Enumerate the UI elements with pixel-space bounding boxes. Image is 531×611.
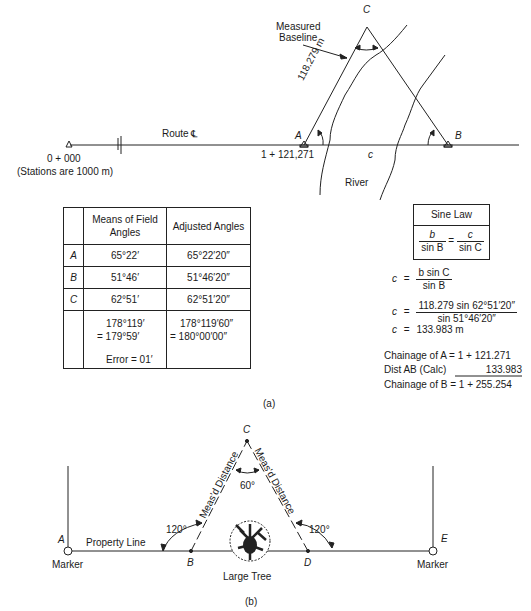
route-label: Route ℄	[162, 128, 197, 139]
stations-note: (Stations are 1000 m)	[17, 166, 113, 177]
computation-step3: c = 133.983 m	[392, 324, 464, 335]
river-label: River	[345, 177, 368, 188]
sum-adjusted-cell: 178°119′60″ = 180°00′00″	[167, 311, 251, 369]
table-row: A 65°22′ 65°22′20″	[64, 245, 251, 267]
start-station-triangle-icon	[66, 141, 72, 147]
route-text: Route	[162, 128, 189, 139]
river-bank-right	[380, 55, 445, 200]
centerline-icon: ℄	[191, 128, 197, 139]
point-b-label: B	[455, 130, 462, 141]
start-station-label: 0 + 000	[47, 153, 81, 164]
error-label: Error = 01′	[84, 343, 166, 366]
computation-step2: c = 118.279 sin 62°51′20″sin 51°46′20″	[392, 300, 517, 325]
point-c-label: C	[363, 4, 370, 15]
angle-120-right-label: 120°	[309, 524, 330, 535]
property-line-label: Property Line	[86, 537, 145, 548]
b-point-b-label: B	[187, 557, 194, 568]
point-a-label: A	[295, 130, 302, 141]
sine-law-formula: bsin B = csin C	[414, 226, 489, 254]
table-row: B 51°46′ 51°46′20″	[64, 267, 251, 289]
b-point-c-label: C	[243, 424, 250, 435]
river-bank-left	[320, 25, 407, 195]
caption-a: (a)	[263, 398, 275, 409]
marker-left-label: Marker	[52, 559, 83, 570]
b-point-e-label: E	[441, 533, 448, 544]
station-a-label: 1 + 121,271	[261, 149, 314, 160]
dist-ab: Dist AB (Calc) 133.983	[384, 364, 522, 375]
header-empty-cell	[64, 208, 84, 245]
side-cb	[367, 27, 448, 145]
table-sum-row: 178°119′ = 179°59′ Error = 01′ 178°119′6…	[64, 311, 251, 369]
marker-a-icon	[64, 547, 72, 555]
computation-step1: c = b sin Csin B	[392, 267, 452, 292]
angle-120-left-label: 120°	[166, 524, 187, 535]
header-field-angles: Means of Field Angles	[84, 208, 167, 245]
angle-60-label: 60°	[240, 480, 255, 491]
header-adjusted-angles: Adjusted Angles	[167, 208, 251, 245]
sine-law-box: Sine Law bsin B = csin C	[413, 204, 490, 260]
side-c-label: c	[368, 149, 373, 160]
large-tree-icon	[230, 521, 270, 561]
table-header-row: Means of Field Angles Adjusted Angles	[64, 208, 251, 245]
chainage-b: Chainage of B = 1 + 255.254	[384, 379, 512, 390]
marker-right-label: Marker	[417, 559, 448, 570]
b-point-d-label: D	[304, 557, 311, 568]
sum-field-cell: 178°119′ = 179°59′ Error = 01′	[84, 311, 167, 369]
large-tree-label: Large Tree	[223, 571, 271, 582]
table-row: C 62°51′ 62°51′20″	[64, 289, 251, 311]
marker-e-icon	[429, 547, 437, 555]
sine-law-title: Sine Law	[414, 205, 489, 226]
chainage-a: Chainage of A = 1 + 121.271	[384, 350, 511, 361]
b-point-a-label: A	[58, 534, 65, 545]
angles-table: Means of Field Angles Adjusted Angles A …	[63, 207, 251, 369]
station-b-triangle-icon	[444, 141, 452, 147]
caption-b: (b)	[245, 596, 257, 607]
measured-baseline-line1: Measured	[276, 21, 320, 32]
